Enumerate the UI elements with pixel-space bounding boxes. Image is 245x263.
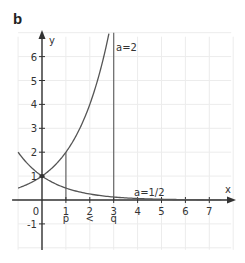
y-tick-label: -1: [27, 219, 37, 230]
annotation: <: [86, 213, 94, 224]
axes: [12, 30, 236, 250]
x-axis-arrow-icon: [227, 197, 236, 204]
x-axis-label: x: [225, 184, 231, 195]
y-tick-label: 5: [31, 76, 37, 87]
grid: [18, 33, 233, 250]
x-tick-label: 7: [206, 206, 212, 217]
y-tick-label: 3: [31, 123, 37, 134]
annotation: a=1/2: [134, 187, 165, 198]
y-tick-label: 2: [31, 147, 37, 158]
x-tick-label: 6: [182, 206, 188, 217]
y-tick-label: 1: [31, 171, 37, 182]
exponential-function-chart: 01234567-1123456xya=2a=1/2p<q: [0, 0, 245, 263]
y-tick-label: 6: [31, 52, 37, 63]
y-axis-label: y: [49, 35, 55, 46]
x-tick-label: 0: [33, 206, 39, 217]
curves: [18, 34, 221, 200]
annotation: q: [111, 213, 117, 224]
x-tick-label: 4: [134, 206, 140, 217]
annotation: a=2: [116, 42, 137, 53]
annotation: p: [63, 213, 69, 224]
y-axis-arrow-icon: [39, 30, 46, 39]
x-tick-label: 5: [158, 206, 164, 217]
y-tick-label: 4: [31, 99, 37, 110]
intersection-point: [40, 174, 44, 178]
